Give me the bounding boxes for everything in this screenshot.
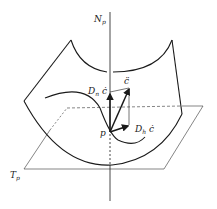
vectors — [110, 88, 129, 132]
acceleration-vector — [110, 89, 129, 132]
surface — [24, 40, 182, 165]
label-acceleration: c̈ — [124, 76, 129, 86]
label-tangent-component: Dh ċ — [134, 124, 154, 135]
label-point-p: p — [100, 128, 106, 138]
label-normal-line: Np — [93, 14, 106, 26]
label-normal-component: Dn ċ — [87, 86, 107, 97]
curve-on-surface — [45, 92, 145, 143]
label-tangent-plane: Tp — [10, 170, 20, 182]
surface-diagram: Np Tp p c̈ Dn ċ Dh ċ — [0, 0, 217, 209]
tangent-plane — [24, 106, 203, 169]
